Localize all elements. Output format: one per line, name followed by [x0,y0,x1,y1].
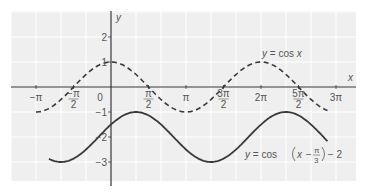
y-tick-label: 2 [101,32,107,43]
svg-text:y = cos: y = cos [244,149,277,160]
x-tick-label: 0 [97,92,103,103]
cos-series-label: y = cos x [261,48,303,59]
y-tick-label: −3 [96,157,108,168]
x-tick-label: −π [67,88,80,99]
svg-text:−: − [303,149,314,160]
svg-text:2: 2 [221,99,227,110]
chart: −π−π20π2π3π22π5π23π 21−1−2−3 y x y = cos… [0,0,366,192]
svg-text:x: x [296,149,303,160]
y-tick-label: −1 [96,107,108,118]
y-axis-label: y [115,12,122,23]
svg-text:3: 3 [314,156,319,165]
x-tick-label: 3π [330,92,343,103]
x-tick-label: π [145,88,152,99]
svg-text:2: 2 [71,99,77,110]
x-tick-label: 5π [292,88,305,99]
svg-text:π: π [314,146,320,155]
x-tick-label: 2π [255,92,268,103]
x-axis-label: x [347,72,354,83]
x-tick-label: π [183,92,190,103]
x-tick-label: 3π [217,88,230,99]
y-tick-label: −2 [96,132,108,143]
y-tick-label: 1 [101,57,107,68]
svg-text:− 2: − 2 [325,149,342,160]
svg-text:2: 2 [146,99,152,110]
svg-text:2: 2 [296,99,302,110]
x-tick-label: −π [30,92,43,103]
